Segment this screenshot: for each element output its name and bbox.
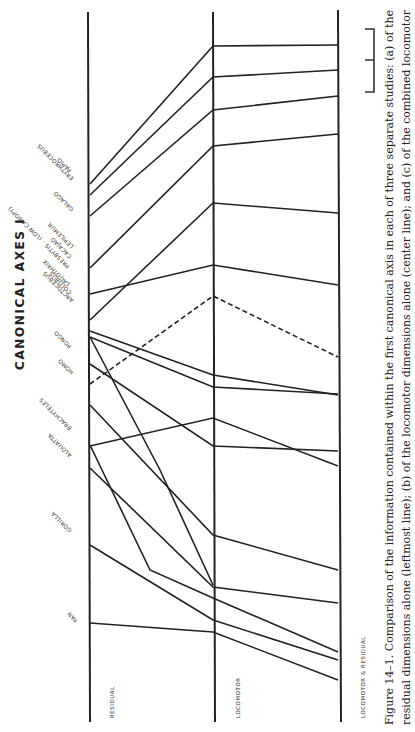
figure-title: CANONICAL AXES I: [13, 218, 27, 370]
axis-residual: [88, 12, 90, 722]
axis-label-combined: LOCOMOTOR & RESIDUAL: [360, 636, 366, 718]
genus-labels: PAPIO ERYTHROCEBUS GALAGO LEPILEMUR CACA…: [7, 143, 79, 624]
scale-bracket: [365, 29, 374, 92]
label-pongo: PONGO: [53, 329, 73, 349]
label-homo: HOMO: [57, 358, 75, 376]
axis-combined: [338, 10, 341, 722]
figure-canvas: PAPIO ERYTHROCEBUS GALAGO LEPILEMUR CACA…: [0, 0, 415, 732]
axis-label-locomotor: LOCOMOTOR: [235, 677, 241, 718]
axis-locomotor: [213, 12, 215, 722]
axis-label-residual: RESIDUAL: [109, 686, 115, 718]
caption-line-1: Figure 14–1. Comparison of the informati…: [383, 10, 395, 725]
label-galago: GALAGO: [52, 190, 75, 213]
caption-line-2: residual dimensions alone (leftmost line…: [400, 10, 412, 725]
label-pan: PAN: [66, 611, 79, 624]
label-gorilla: GORILLA: [50, 511, 73, 534]
label-brachyteles: BRACHYTELES: [38, 397, 73, 432]
label-alouatta: ALOUATTA: [46, 432, 72, 458]
label-erythrocebus: ERYTHROCEBUS: [36, 143, 75, 182]
